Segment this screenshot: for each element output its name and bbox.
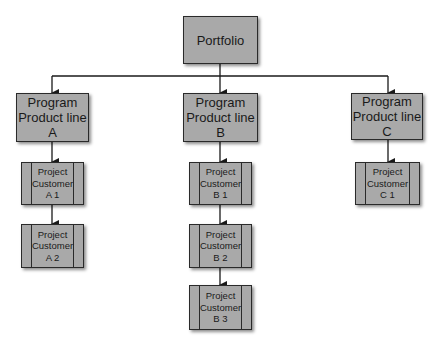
project-label: Project Customer B 3 bbox=[200, 290, 241, 325]
project-label: Project Customer B 1 bbox=[200, 166, 241, 201]
process-bar-left bbox=[365, 163, 366, 204]
project-node-b3: Project Customer B 3 bbox=[189, 285, 252, 330]
project-label: Project Customer C 1 bbox=[367, 166, 408, 201]
project-node-a1: Project Customer A 1 bbox=[21, 162, 84, 205]
project-node-c1: Project Customer C 1 bbox=[355, 162, 420, 205]
program-node-a: Program Product line A bbox=[16, 93, 89, 142]
process-bar-right bbox=[241, 163, 242, 204]
program-label: Program Product line A bbox=[18, 95, 87, 140]
diagram-canvas: Portfolio Program Product line A Program… bbox=[0, 0, 444, 348]
program-label: Program Product line C bbox=[353, 94, 422, 139]
program-label: Program Product line B bbox=[186, 95, 255, 140]
project-label: Project Customer B 2 bbox=[200, 229, 241, 264]
program-node-b: Program Product line B bbox=[183, 93, 258, 142]
portfolio-label: Portfolio bbox=[197, 33, 245, 48]
process-bar-right bbox=[409, 163, 410, 204]
project-label: Project Customer A 1 bbox=[32, 166, 73, 201]
process-bar-right bbox=[241, 286, 242, 329]
project-node-a2: Project Customer A 2 bbox=[21, 224, 84, 268]
process-bar-right bbox=[73, 225, 74, 267]
process-bar-right bbox=[73, 163, 74, 204]
project-label: Project Customer A 2 bbox=[32, 229, 73, 264]
project-node-b1: Project Customer B 1 bbox=[189, 162, 252, 205]
process-bar-right bbox=[241, 225, 242, 267]
project-node-b2: Project Customer B 2 bbox=[189, 224, 252, 268]
program-node-c: Program Product line C bbox=[351, 93, 423, 140]
portfolio-node: Portfolio bbox=[183, 16, 258, 64]
